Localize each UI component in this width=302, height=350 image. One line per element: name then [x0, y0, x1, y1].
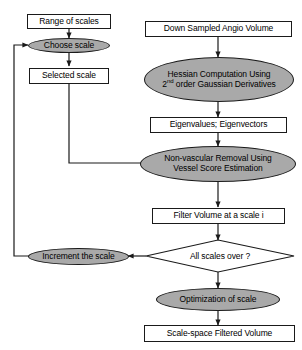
node-eigenvalues-eigenvectors[interactable]: Eigenvalues; Eigenvectors	[150, 117, 287, 133]
node-down-sampled-angio-volume[interactable]: Down Sampled Angio Volume	[145, 21, 292, 37]
node-optimization-of-scale[interactable]: Optimization of scale	[156, 288, 280, 311]
node-non-vascular-removal-line2: Vessel Score Estimation	[173, 164, 262, 174]
node-scale-space-filtered-volume-label: Scale-space Filtered Volume	[167, 329, 273, 338]
node-choose-scale-label: Choose scale	[44, 41, 94, 51]
node-filter-volume[interactable]: Filter Volume at a scale i	[152, 208, 285, 224]
node-hessian-computation[interactable]: Hessian Computation Using 2nd order Gaus…	[144, 57, 294, 102]
node-increment-the-scale-label: Increment the scale	[42, 252, 114, 262]
node-hessian-order-suffix: nd	[167, 77, 174, 84]
node-filter-volume-label: Filter Volume at a scale i	[174, 211, 264, 220]
node-optimization-of-scale-label: Optimization of scale	[180, 295, 257, 305]
node-eigenvalues-eigenvectors-label: Eigenvalues; Eigenvectors	[170, 120, 268, 129]
node-scale-space-filtered-volume[interactable]: Scale-space Filtered Volume	[144, 325, 295, 342]
node-choose-scale[interactable]: Choose scale	[28, 38, 110, 53]
decision-diamond-shape	[146, 240, 294, 272]
node-selected-scale-label: Selected scale	[42, 71, 96, 80]
flowchart-canvas: Range of scales Choose scale Selected sc…	[0, 0, 302, 350]
node-hessian-order-rest: order Gaussian Derivatives	[174, 79, 276, 89]
node-hessian-computation-line2: 2nd order Gaussian Derivatives	[162, 80, 275, 90]
node-range-of-scales-label: Range of scales	[39, 17, 98, 26]
node-range-of-scales[interactable]: Range of scales	[27, 14, 111, 29]
node-down-sampled-angio-volume-label: Down Sampled Angio Volume	[164, 24, 274, 33]
node-non-vascular-removal[interactable]: Non-vascular Removal Using Vessel Score …	[140, 146, 296, 182]
node-selected-scale[interactable]: Selected scale	[29, 68, 109, 84]
node-increment-the-scale[interactable]: Increment the scale	[28, 248, 129, 265]
